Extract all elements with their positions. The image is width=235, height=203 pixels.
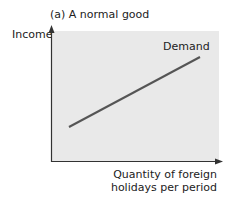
x-axis-label: Quantity of foreign holidays per period bbox=[111, 168, 217, 194]
x-axis-label-line2: holidays per period bbox=[111, 181, 217, 194]
x-axis-label-line1: Quantity of foreign bbox=[111, 168, 217, 181]
demand-label: Demand bbox=[163, 40, 210, 53]
y-axis-arrow-icon bbox=[49, 25, 55, 33]
